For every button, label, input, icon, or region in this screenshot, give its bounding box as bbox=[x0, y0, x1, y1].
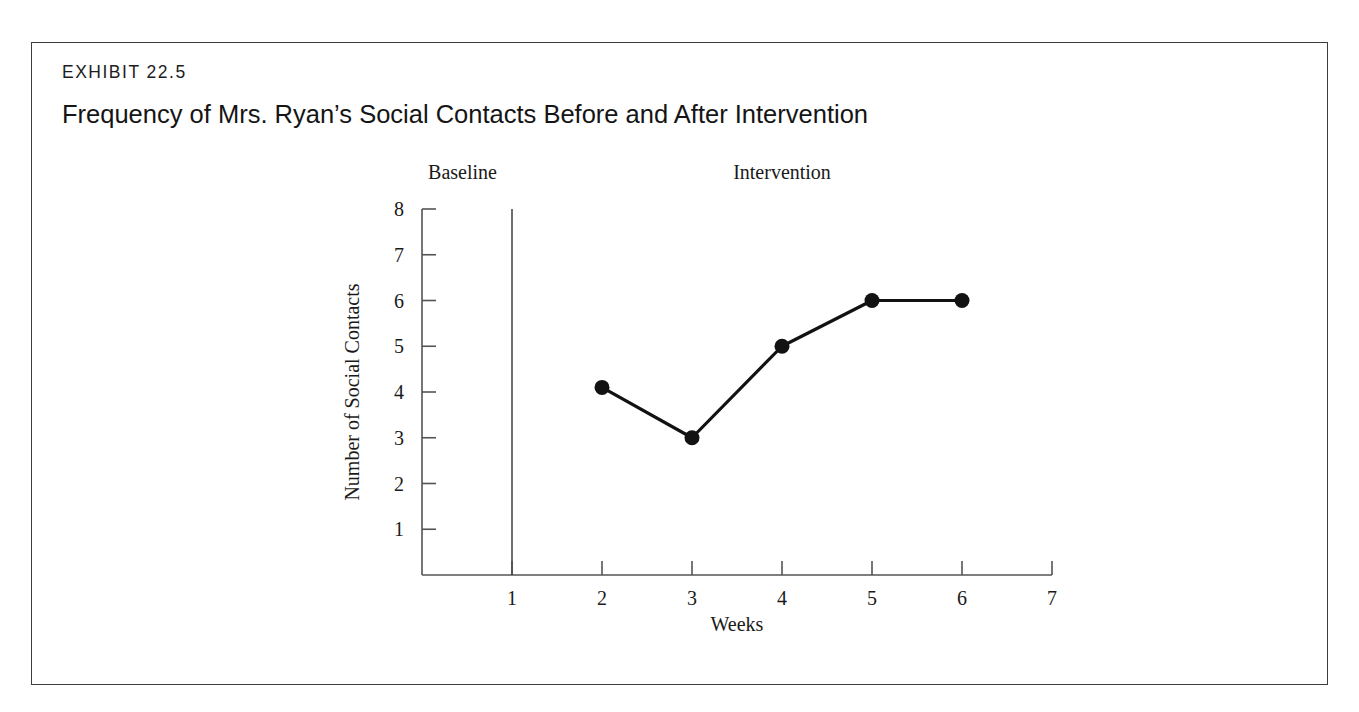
y-tick-label: 4 bbox=[394, 381, 404, 403]
phase-label-baseline: Baseline bbox=[428, 161, 497, 183]
data-point-marker bbox=[685, 430, 700, 445]
data-point-marker bbox=[865, 293, 880, 308]
line-chart: Baseline Intervention 12345678 1234567 W… bbox=[32, 43, 1329, 686]
y-axis-title: Number of Social Contacts bbox=[341, 283, 363, 500]
page-top-text-sliver bbox=[18, 0, 718, 7]
y-axis-ticks bbox=[422, 209, 436, 529]
y-tick-label: 7 bbox=[394, 244, 404, 266]
x-tick-label: 6 bbox=[957, 587, 967, 609]
chart-area: Baseline Intervention 12345678 1234567 W… bbox=[32, 43, 1329, 686]
y-tick-label: 8 bbox=[394, 198, 404, 220]
y-tick-label: 1 bbox=[394, 518, 404, 540]
y-axis-tick-labels: 12345678 bbox=[394, 198, 404, 540]
data-point-marker bbox=[775, 339, 790, 354]
y-tick-label: 3 bbox=[394, 427, 404, 449]
x-axis-tick-labels: 1234567 bbox=[507, 587, 1057, 609]
x-tick-label: 7 bbox=[1047, 587, 1057, 609]
data-series-points bbox=[595, 293, 970, 445]
x-tick-label: 5 bbox=[867, 587, 877, 609]
y-tick-label: 2 bbox=[394, 473, 404, 495]
data-series-line bbox=[602, 301, 962, 438]
exhibit-frame: EXHIBIT 22.5 Frequency of Mrs. Ryan’s So… bbox=[31, 42, 1328, 685]
x-tick-label: 3 bbox=[687, 587, 697, 609]
y-tick-label: 6 bbox=[394, 290, 404, 312]
data-point-marker bbox=[595, 380, 610, 395]
y-tick-label: 5 bbox=[394, 335, 404, 357]
x-tick-label: 4 bbox=[777, 587, 787, 609]
x-axis-ticks bbox=[512, 561, 1052, 575]
x-axis-title: Weeks bbox=[711, 613, 764, 635]
x-tick-label: 2 bbox=[597, 587, 607, 609]
phase-label-intervention: Intervention bbox=[733, 161, 831, 183]
x-tick-label: 1 bbox=[507, 587, 517, 609]
data-point-marker bbox=[955, 293, 970, 308]
